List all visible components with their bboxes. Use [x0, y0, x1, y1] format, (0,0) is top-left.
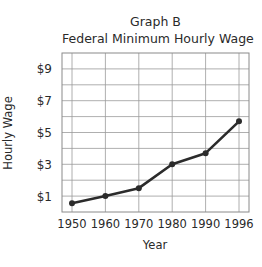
- data-point-marker: [203, 150, 209, 156]
- data-point-marker: [169, 161, 175, 167]
- x-tick-label: 1980: [158, 217, 187, 231]
- x-tick-label: 1950: [57, 217, 86, 231]
- data-point-marker: [102, 193, 108, 199]
- y-tick-label: $9: [37, 62, 52, 76]
- line-chart: $1$3$5$7$9195019601970198019901996: [0, 0, 262, 267]
- x-tick-label: 1996: [224, 217, 253, 231]
- y-tick-label: $5: [37, 126, 52, 140]
- y-tick-label: $1: [37, 190, 52, 204]
- x-tick-label: 1990: [191, 217, 220, 231]
- series-line: [72, 121, 239, 203]
- x-tick-label: 1970: [124, 217, 153, 231]
- y-tick-label: $7: [37, 94, 52, 108]
- data-point-marker: [136, 185, 142, 191]
- x-axis-label: Year: [143, 238, 167, 252]
- x-tick-label: 1960: [91, 217, 120, 231]
- data-point-marker: [236, 118, 242, 124]
- y-axis-label: Hourly Wage: [1, 96, 15, 169]
- y-tick-label: $3: [37, 158, 52, 172]
- data-point-marker: [69, 200, 75, 206]
